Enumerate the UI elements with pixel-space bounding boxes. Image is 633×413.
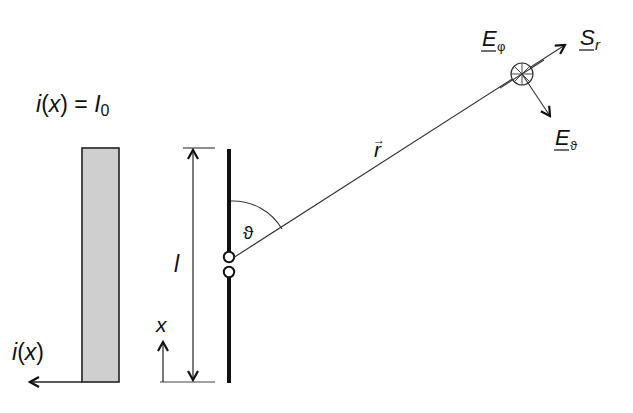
svg-text:φ: φ bbox=[497, 39, 505, 54]
e-theta-label: E ϑ bbox=[554, 125, 578, 153]
e-theta-arrow bbox=[522, 74, 550, 116]
radius-vector-arrow-mark: → bbox=[373, 133, 385, 147]
angle-arc bbox=[231, 201, 282, 229]
current-axis-label: i(x) bbox=[12, 339, 44, 365]
svg-text:ϑ: ϑ bbox=[570, 138, 578, 153]
feed-terminal-bottom bbox=[224, 267, 234, 277]
x-axis-label: x bbox=[155, 313, 168, 336]
length-label: l bbox=[174, 251, 180, 277]
diagram-svg: i(x) = I0 i(x) l x ϑ r → bbox=[0, 0, 633, 413]
dipole-antenna bbox=[224, 149, 234, 383]
svg-text:E: E bbox=[555, 125, 570, 150]
svg-text:r: r bbox=[595, 36, 601, 53]
dipole-diagram: i(x) = I0 i(x) l x ϑ r → bbox=[0, 0, 633, 413]
length-dimension bbox=[160, 148, 215, 382]
current-formula-label: i(x) = I0 bbox=[36, 91, 110, 119]
angle-label: ϑ bbox=[243, 222, 254, 243]
svg-text:E: E bbox=[482, 26, 497, 51]
feed-terminal-top bbox=[224, 252, 234, 262]
poynting-label: S r bbox=[579, 25, 601, 53]
e-phi-label: E φ bbox=[481, 26, 505, 54]
svg-text:S: S bbox=[580, 25, 595, 50]
current-rectangle bbox=[82, 148, 119, 382]
